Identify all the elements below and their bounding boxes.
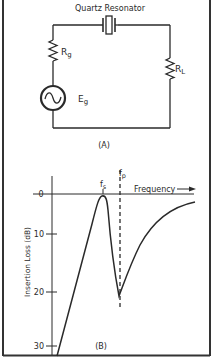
sine-wave-icon bbox=[45, 93, 61, 103]
figure-frame bbox=[3, 0, 210, 356]
source-resistor-icon bbox=[49, 40, 57, 61]
quartz-resonator-figure: Quartz Resonator Rg Eg RL (A) 0 10 20 30… bbox=[0, 0, 213, 358]
quartz-crystal-icon bbox=[103, 16, 118, 34]
y-tick-label-30: 30 bbox=[34, 342, 44, 351]
insertion-loss-curve bbox=[57, 196, 195, 356]
fp-label: fp bbox=[119, 169, 126, 180]
y-tick-label-10: 10 bbox=[34, 230, 44, 239]
y-axis-label: Insertion Loss (dB) bbox=[23, 227, 32, 297]
arrow-right-icon bbox=[189, 187, 196, 192]
y-tick-label-0: 0 bbox=[38, 190, 43, 199]
graph-caption: (B) bbox=[95, 342, 107, 351]
insertion-loss-graph bbox=[33, 170, 196, 356]
source-label: Eg bbox=[78, 94, 88, 106]
circuit-diagram bbox=[41, 16, 174, 128]
x-axis-label: Frequency bbox=[134, 185, 176, 194]
resonator-label: Quartz Resonator bbox=[75, 4, 146, 13]
fs-label: fs bbox=[100, 180, 107, 191]
y-tick-label-20: 20 bbox=[34, 288, 44, 297]
source-resistor-label: Rg bbox=[61, 47, 72, 59]
load-resistor-icon bbox=[166, 58, 174, 79]
circuit-caption: (A) bbox=[98, 141, 110, 150]
load-resistor-label: RL bbox=[175, 64, 185, 76]
